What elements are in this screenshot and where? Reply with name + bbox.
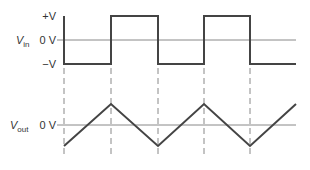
waveform-diagram: +V 0 V −V Vin 0 V Vout — [0, 0, 310, 170]
vout-label: Vout — [10, 119, 29, 134]
vin-label: Vin — [16, 34, 30, 49]
vin-minus-label: −V — [42, 58, 56, 70]
vout-zero-label: 0 V — [39, 119, 56, 131]
vin-plus-label: +V — [42, 10, 56, 22]
vin-zero-label: 0 V — [39, 34, 56, 46]
